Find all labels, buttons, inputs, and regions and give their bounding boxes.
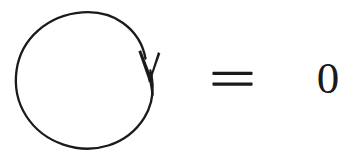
equals-sign <box>213 72 253 86</box>
figure-canvas: 0 <box>0 0 357 156</box>
oriented-circle <box>16 12 153 148</box>
math-expression-drawing <box>0 0 357 156</box>
circle-contour-path <box>16 12 153 148</box>
zero-digit: 0 <box>310 52 346 104</box>
clockwise-arrowhead <box>138 50 160 82</box>
equals-bottom-bar <box>213 83 253 86</box>
equals-top-bar <box>213 72 253 75</box>
